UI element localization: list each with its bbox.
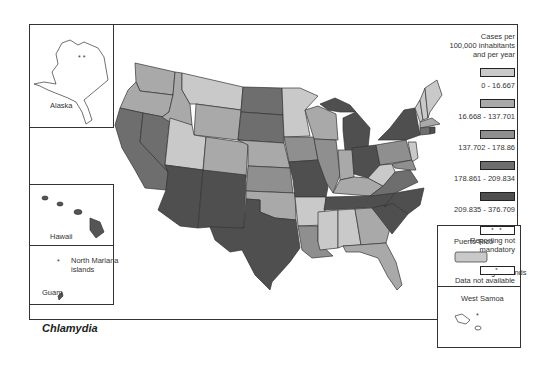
legend-item-4: 178.861 - 209.834 [437,156,515,183]
state-washington [135,63,175,95]
legend-label-not-available: Data not available [437,276,515,285]
hawaii-island-oahu [57,202,63,206]
samoa-marker: * [476,312,479,319]
legend-range-5: 209.835 - 376.709 [437,205,515,214]
state-wyoming [194,104,241,140]
hawaii-island-big [90,218,104,238]
alaska-marker: * * [78,54,86,61]
map-title: Chlamydia [42,322,98,334]
west-samoa-island [475,326,481,330]
state-indiana [338,150,354,180]
legend-range-2: 16.668 - 137.701 [437,112,515,121]
legend-item-1: 0 - 16.667 [437,63,515,90]
legend-swatch-not-mandatory: * * [480,226,515,235]
state-north-dakota [241,87,283,115]
legend-swatch-not-available: * [480,266,515,275]
alaska-shape [34,40,108,124]
legend-title-1: Cases per [437,32,515,41]
state-south-dakota [238,112,284,143]
west-samoa-label: West Samoa [461,294,504,303]
west-samoa-shape [455,314,470,324]
legend-range-3: 137.702 - 178.86 [437,143,515,152]
north-mariana-label-1: North Mariana [71,256,119,265]
guam-label: Guam [42,288,62,297]
mariana-marker: * [57,258,60,265]
legend-title-2: 100,000 inhabitants [437,41,515,50]
legend-swatch-5 [480,192,515,201]
legend: Cases per 100,000 inhabitants and per ye… [437,32,515,285]
legend-swatch-3 [480,130,515,139]
hawaii-label: Hawaii [50,232,73,241]
legend-item-not-mandatory: * * Reporting not mandatory [437,218,515,254]
legend-item-3: 137.702 - 178.86 [437,125,515,152]
legend-item-5: 209.835 - 376.709 [437,187,515,214]
hawaii-island-kauai [42,196,48,200]
hawaii-island-maui [74,210,82,215]
legend-range-4: 178.861 - 209.834 [437,174,515,183]
alaska-label: Alaska [50,101,73,110]
north-mariana-label-2: islands [71,265,94,274]
state-florida [343,243,402,290]
state-michigan-lower [343,112,370,150]
state-connecticut [420,127,430,135]
state-mississippi [318,210,338,250]
legend-swatch-2 [480,99,515,108]
state-new-mexico [198,170,246,228]
state-iowa [284,137,318,162]
legend-swatch-4 [480,161,515,170]
legend-title-3: and per year [437,50,515,59]
legend-item-not-available: * Data not available [437,258,515,285]
legend-item-2: 16.668 - 137.701 [437,94,515,121]
legend-label-not-mandatory: Reporting not mandatory [437,236,515,254]
legend-swatch-1 [480,68,515,77]
state-rhode-island [430,127,435,134]
state-montana [182,73,243,110]
state-new-york [378,108,420,140]
state-kansas [246,166,293,193]
legend-range-1: 0 - 16.667 [437,81,515,90]
